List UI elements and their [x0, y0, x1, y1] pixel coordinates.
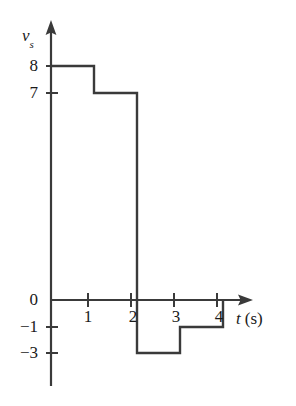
- y-tick-label-7: 7: [8, 84, 38, 101]
- x-axis-label-unit: (s): [245, 309, 263, 328]
- y-tick-label-0: 0: [8, 291, 38, 308]
- y-tick-label-minus-3: −3: [2, 344, 38, 361]
- y-axis-label-subscript: s: [30, 38, 34, 50]
- x-tick-label-4: 4: [205, 308, 233, 325]
- plot-canvas: [0, 0, 296, 406]
- axis-group: [46, 20, 253, 386]
- y-axis-label: vs: [22, 27, 34, 47]
- y-axis-label-symbol: v: [22, 26, 30, 45]
- x-axis-label-symbol: t: [236, 309, 241, 328]
- y-tick-label-minus-1: −1: [2, 318, 38, 335]
- chart-figure: 8 7 0 −1 −3 1 2 3 4 vs t(s): [0, 0, 296, 406]
- x-tick-label-1: 1: [74, 308, 102, 325]
- y-tick-label-8: 8: [8, 57, 38, 74]
- x-tick-label-2: 2: [119, 308, 147, 325]
- x-tick-label-3: 3: [162, 308, 190, 325]
- x-axis-label: t(s): [236, 310, 263, 327]
